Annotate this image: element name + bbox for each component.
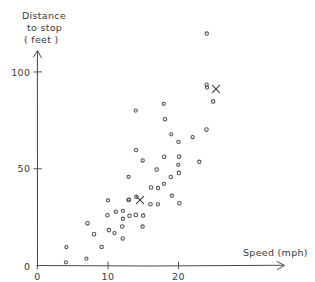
data-point: [134, 148, 137, 151]
data-point: [65, 245, 68, 248]
data-point: [191, 136, 194, 139]
data-point: [155, 168, 159, 172]
x-tick-label: 20: [172, 271, 185, 282]
scatter-plot-figure: 01020050100 Distance to stop ( feet ) Sp…: [0, 0, 315, 282]
data-point: [114, 210, 117, 213]
data-point: [85, 257, 88, 260]
data-point: [100, 245, 103, 248]
data-point: [127, 175, 130, 178]
data-point: [106, 199, 109, 202]
data-point: [134, 109, 137, 112]
x-tick-label: 0: [34, 271, 40, 282]
data-point: [128, 214, 132, 218]
data-point: [106, 214, 110, 218]
data-point: [178, 201, 182, 205]
data-point: [141, 159, 144, 162]
data-point: [107, 228, 110, 231]
data-point: [177, 155, 181, 159]
data-point: [162, 102, 165, 105]
data-point: [205, 128, 209, 132]
y-axis-title-line3: ( feet ): [24, 34, 59, 45]
data-point: [162, 182, 165, 185]
x-axis-title: Speed (mph): [243, 247, 308, 258]
data-point: [149, 186, 153, 190]
x-tick-label: 10: [102, 271, 115, 282]
data-point: [121, 217, 124, 220]
data-point: [86, 222, 90, 226]
data-points: [64, 32, 215, 264]
data-point: [205, 83, 208, 86]
y-axis-title-line2: to stop: [27, 22, 62, 33]
data-point: [92, 232, 96, 236]
y-axis-title-line1: Distance: [22, 10, 66, 21]
data-point: [64, 261, 67, 264]
data-point: [177, 171, 181, 175]
data-point: [162, 155, 165, 158]
data-point: [121, 237, 124, 240]
data-point: [121, 209, 124, 212]
annotation-x-marker: [136, 196, 143, 203]
annotation-x-marker: [212, 85, 219, 92]
data-point: [198, 160, 201, 163]
data-point: [163, 117, 167, 121]
data-point: [113, 231, 116, 234]
data-point: [211, 100, 215, 104]
y-tick-label: 50: [18, 163, 31, 174]
data-point: [170, 194, 173, 197]
data-point: [156, 203, 159, 206]
x-axis-line: [37, 265, 283, 266]
tick-marks: [34, 72, 179, 269]
data-point: [156, 186, 159, 189]
y-tick-label: 0: [24, 261, 30, 272]
data-point: [149, 202, 153, 206]
y-tick-label: 100: [11, 67, 30, 78]
plot-canvas: 01020050100 Distance to stop ( feet ) Sp…: [0, 0, 315, 282]
data-point: [205, 32, 208, 35]
data-point: [177, 163, 180, 166]
data-point: [141, 225, 144, 228]
data-point: [120, 225, 124, 229]
data-point: [134, 213, 138, 217]
data-point: [177, 140, 180, 143]
annotation-markers: [136, 85, 219, 203]
data-point: [141, 214, 144, 217]
data-point: [170, 133, 173, 136]
data-point: [169, 175, 172, 178]
